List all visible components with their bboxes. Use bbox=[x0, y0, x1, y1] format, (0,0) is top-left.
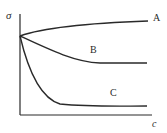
y-axis-label: σ bbox=[6, 9, 12, 21]
curve-a bbox=[20, 21, 148, 36]
curve-b bbox=[20, 36, 147, 63]
curve-b-label: B bbox=[90, 44, 97, 55]
x-axis-label: c bbox=[152, 118, 157, 129]
diagram-canvas: σ c A B C bbox=[0, 0, 167, 133]
curve-c-label: C bbox=[110, 87, 117, 98]
curve-c bbox=[20, 36, 147, 106]
stress-concentration-diagram: σ c A B C bbox=[0, 0, 167, 133]
curve-a-label: A bbox=[153, 12, 161, 23]
